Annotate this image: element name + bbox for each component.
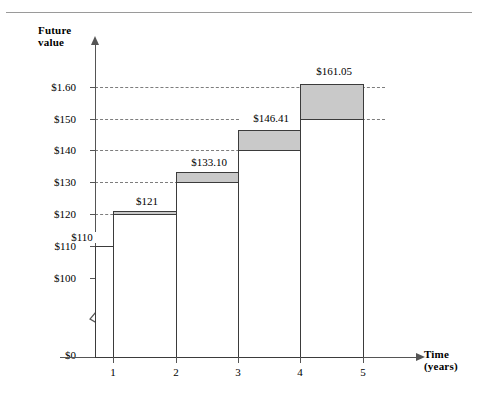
bar-value-label-2: $121 [123,196,171,207]
y-tick-label-100: $100 [20,273,76,284]
y-tick-label-130: $130 [20,177,76,188]
x-axis-title: Time (years) [424,348,458,372]
x-tick-3 [238,357,239,363]
bar-year-4 [238,150,301,358]
bar-value-label-1: $110 [58,232,106,243]
bar-value-label-4: $146.41 [240,113,302,124]
y-axis-title-line2: value [38,36,71,48]
bar-year-2 [113,214,177,358]
bar-value-label-5: $161.05 [303,66,365,77]
x-tick-4 [300,357,301,363]
y-tick-label-150: $150 [20,114,76,125]
y-tick-label-140: $140 [20,145,76,156]
y-tick-label-160: $1.60 [20,82,76,93]
x-axis-arrowhead [416,353,425,361]
x-tick-label-4: 4 [290,367,310,378]
bar-growth-cap-3 [176,172,239,183]
y-axis-title: Future value [38,24,71,48]
bar-value-label-3: $133.10 [178,157,240,168]
x-tick-label-3: 3 [228,367,248,378]
x-axis-title-line2: (years) [424,360,458,372]
bar-year-1 [95,246,114,358]
y-tick-label-120: $120 [20,209,76,220]
x-tick-2 [176,357,177,363]
x-tick-label-1: 1 [103,367,123,378]
bar-growth-cap-4 [238,130,301,151]
x-tick-1 [113,357,114,363]
bar-growth-cap-2 [113,211,177,215]
y-tick-label-0: $0 [20,350,76,361]
y-axis-title-line1: Future [38,24,71,36]
x-tick-5 [363,357,364,363]
future-value-bar-chart: Future value Time (years) $1.60 $150 $14… [0,0,477,394]
bar-year-5 [300,119,364,358]
y-axis-arrowhead [91,36,99,45]
x-tick-label-2: 2 [166,367,186,378]
bar-year-3 [176,182,239,358]
x-axis-title-line1: Time [424,348,458,360]
bar-growth-cap-5 [300,84,364,120]
x-tick-label-5: 5 [353,367,373,378]
